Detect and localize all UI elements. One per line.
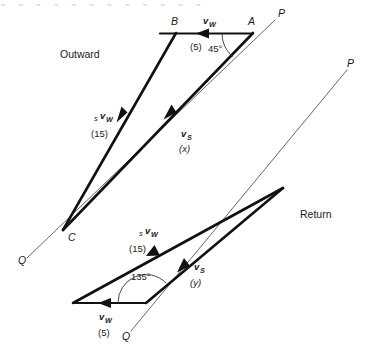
velocity-triangle-svg: Outward B A C P Q v W (5) 45° s v W (15)… [0,0,367,345]
return-side-vs [146,188,283,303]
vector-diagram-figure: ~ ~ ~ ~ ~ ~ ~ ~ ~ ~ ~ ~ [0,0,367,345]
point-label-a: A [247,15,255,27]
outward-section-label: Outward [60,48,100,60]
outward-stillair-vector-label: s v W (15) [91,110,114,139]
return-ground-magnitude: (y) [190,277,201,288]
outward-stillair-prefix: s [94,114,98,123]
outward-wind-vector-subscript: W [209,20,217,29]
outward-line-label-p: P [278,7,285,19]
return-stillair-prefix: s [139,229,143,238]
return-wind-vector-label: v W (5) [98,311,113,338]
return-stillair-magnitude: (15) [129,243,146,254]
return-side-long [73,188,283,303]
outward-line-label-q: Q [18,254,26,266]
return-side-vw [73,298,146,308]
return-wind-magnitude: (5) [98,327,110,338]
outward-ground-vector-subscript: S [187,133,192,142]
point-label-c: C [68,231,76,243]
outward-angle-arc [222,34,233,57]
outward-wind-magnitude: (5) [190,41,202,52]
point-label-b: B [171,15,178,27]
outward-ground-vector-label: v S (x) [179,128,192,154]
return-section-label: Return [300,208,332,220]
return-ground-vector-subscript: S [200,266,205,275]
return-line-label-q: Q [122,330,130,342]
outward-stillair-vector-subscript: W [106,115,114,124]
outward-ground-magnitude: (x) [179,143,190,154]
return-angle-label: 135° [131,271,151,282]
return-wind-vector-subscript: W [105,316,113,325]
return-line-label-p: P [347,57,354,69]
return-stillair-vector-subscript: W [151,230,159,239]
outward-stillair-magnitude: (15) [91,128,108,139]
return-track-line-pq [131,70,347,331]
outward-angle-label: 45° [208,43,223,54]
